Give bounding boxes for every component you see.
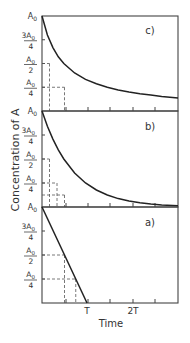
panel-label: c) — [145, 25, 154, 36]
y-tick-label: A02 — [24, 55, 37, 75]
panel-a: A03A04A02A04a) — [22, 203, 178, 303]
y-tick-label: A04 — [24, 270, 37, 290]
svg-text:A0: A0 — [26, 55, 35, 65]
y-tick-label: A02 — [24, 150, 37, 170]
y-tick-label: A0 — [28, 203, 37, 213]
svg-text:A0: A0 — [26, 150, 35, 160]
svg-text:4: 4 — [29, 233, 34, 242]
panel-b: A03A04A02A04b) — [22, 107, 178, 207]
panel-label: b) — [145, 121, 155, 132]
y-tick-label: A02 — [24, 246, 37, 266]
svg-text:A0: A0 — [28, 12, 37, 22]
svg-text:A0: A0 — [26, 78, 35, 88]
svg-text:4: 4 — [29, 137, 34, 146]
svg-text:4: 4 — [29, 281, 34, 290]
svg-text:A0: A0 — [26, 270, 35, 280]
x-tick-label-T: T — [83, 306, 90, 316]
svg-text:4: 4 — [29, 89, 34, 98]
svg-text:2: 2 — [29, 66, 34, 75]
svg-text:4: 4 — [29, 185, 34, 194]
svg-text:3A0: 3A0 — [22, 222, 36, 232]
y-tick-label: A0 — [28, 107, 37, 117]
decay-curve — [42, 16, 178, 98]
kinetics-chart: A03A04A02A04c)A03A04A02A04b)A03A04A02A04… — [0, 0, 190, 343]
x-axis-label: Time — [98, 318, 123, 329]
decay-curve — [42, 111, 178, 206]
y-tick-label: 3A04 — [22, 126, 37, 146]
y-axis-label: Concentration of A — [9, 108, 22, 211]
panel-label: a) — [145, 217, 155, 228]
svg-text:3A0: 3A0 — [22, 126, 36, 136]
svg-text:A0: A0 — [26, 174, 35, 184]
plot-frame — [42, 111, 178, 207]
svg-text:4: 4 — [29, 42, 34, 51]
panel-c: A03A04A02A04c) — [22, 12, 178, 111]
y-tick-label: A04 — [24, 78, 37, 98]
x-tick-label-2T: 2T — [127, 306, 139, 316]
svg-text:2: 2 — [29, 161, 34, 170]
svg-text:A0: A0 — [28, 203, 37, 213]
svg-text:A0: A0 — [26, 246, 35, 256]
svg-text:2: 2 — [29, 257, 34, 266]
y-tick-label: A04 — [24, 174, 37, 194]
svg-text:A0: A0 — [28, 107, 37, 117]
y-tick-label: 3A04 — [22, 222, 37, 242]
y-tick-label: 3A04 — [22, 31, 37, 51]
svg-text:3A0: 3A0 — [22, 31, 36, 41]
y-tick-label: A0 — [28, 12, 37, 22]
plot-frame — [42, 16, 178, 111]
